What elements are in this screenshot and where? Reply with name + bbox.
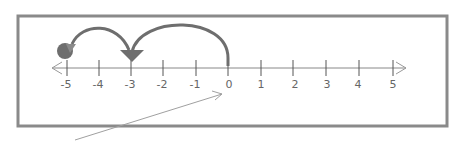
tick-label: -2 [150,78,174,91]
tick-label: 4 [346,78,370,91]
tick-label: 3 [315,78,339,91]
tick-label: -1 [183,78,207,91]
number-line-diagram: -5 -4 -3 -2 -1 0 1 2 3 4 5 [0,0,459,141]
tick-label: 1 [249,78,273,91]
tick-label: -5 [54,78,78,91]
tick-label: 5 [381,78,405,91]
diagram-graphics [0,0,459,141]
tick-label: 2 [283,78,307,91]
tick-label: -4 [86,78,110,91]
tick-label: -3 [118,78,142,91]
tick-label: 0 [217,78,241,91]
